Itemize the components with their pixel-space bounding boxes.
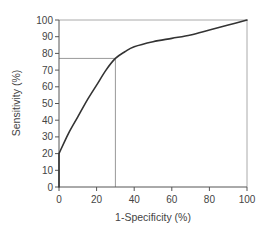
reference-lines [59, 58, 115, 187]
x-tick-label: 100 [239, 194, 256, 205]
y-axis-title: Sensitivity (%) [10, 70, 22, 137]
y-tick-label: 0 [47, 182, 53, 193]
roc-curve-line [59, 20, 247, 187]
x-tick-label: 20 [91, 194, 103, 205]
y-tick-label: 60 [42, 81, 54, 92]
y-tick-label: 80 [42, 48, 54, 59]
roc-curve [59, 20, 247, 187]
y-tick-label: 40 [42, 115, 54, 126]
x-axis-ticks: 020406080100 [56, 187, 256, 205]
y-tick-label: 100 [36, 15, 53, 26]
y-axis-ticks: 0102030405060708090100 [36, 15, 59, 193]
x-tick-label: 40 [129, 194, 141, 205]
roc-chart: 020406080100 0102030405060708090100 1-Sp… [0, 0, 271, 227]
x-tick-label: 60 [166, 194, 178, 205]
y-tick-label: 30 [42, 131, 54, 142]
y-tick-label: 10 [42, 165, 54, 176]
x-tick-label: 0 [56, 194, 62, 205]
x-tick-label: 80 [204, 194, 216, 205]
y-tick-label: 50 [42, 98, 54, 109]
plot-frame [59, 20, 247, 187]
y-tick-label: 20 [42, 148, 54, 159]
y-tick-label: 70 [42, 65, 54, 76]
axes [59, 20, 247, 187]
x-axis-title: 1-Specificity (%) [115, 211, 191, 223]
y-tick-label: 90 [42, 31, 54, 42]
